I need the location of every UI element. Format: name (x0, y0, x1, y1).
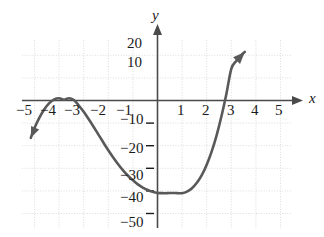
y-tick-label: −50 (120, 215, 143, 230)
y-axis-label: y (152, 8, 159, 23)
x-tick-label: 2 (202, 103, 210, 118)
x-tick-label: −3 (64, 103, 80, 118)
x-tick-label: 1 (177, 103, 185, 118)
x-tick-label: −5 (16, 103, 32, 118)
x-tick-label: 5 (275, 103, 283, 118)
y-tick-marks (146, 123, 154, 213)
y-axis-arrowhead (153, 24, 162, 35)
y-tick-label: −40 (120, 190, 143, 205)
y-tick-label: −20 (120, 141, 143, 156)
x-tick-label: 4 (251, 103, 259, 118)
x-axis-label: x (309, 91, 316, 106)
x-tick-label: 3 (227, 103, 235, 118)
y-tick-label: −30 (120, 168, 143, 183)
y-tick-label: −10 (120, 112, 143, 127)
curve-start-arrowhead (31, 126, 39, 138)
coordinate-plane-plot (0, 0, 324, 237)
graph-figure: −5−4−3−2−112345 2010−10−20−30−40−50 y x (0, 0, 324, 237)
x-tick-label: −2 (90, 103, 106, 118)
y-tick-label: 10 (127, 55, 142, 70)
axes (22, 24, 303, 228)
x-tick-label: −4 (40, 103, 56, 118)
y-tick-label: 20 (127, 36, 142, 51)
x-axis-arrowhead (292, 96, 303, 105)
